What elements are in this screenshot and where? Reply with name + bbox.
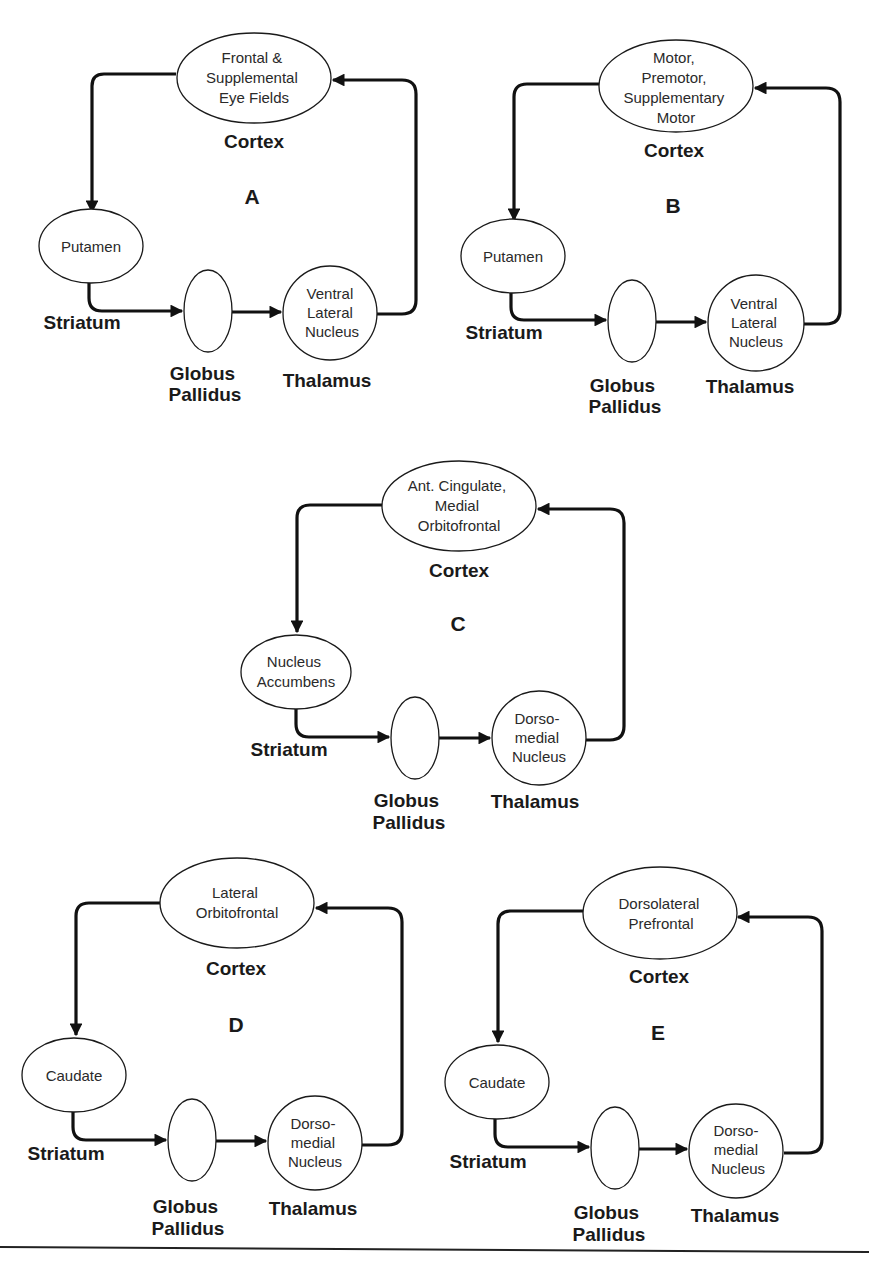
- cortex-node: [583, 867, 737, 959]
- figure-bottom-rule: [0, 1247, 869, 1252]
- circuit-letter: D: [228, 1013, 243, 1036]
- thalamus-label: Thalamus: [283, 370, 372, 391]
- globus-pallidus-label: Globus Pallidus: [573, 1202, 646, 1245]
- striatum-label: Striatum: [465, 322, 542, 343]
- striatum-node-text: Putamen: [61, 238, 121, 255]
- circuit-c: Ant. Cingulate, Medial Orbitofrontal Nuc…: [241, 461, 624, 833]
- cortex-to-striatum-arrow: [76, 903, 160, 1035]
- globus-pallidus-node: [184, 270, 232, 352]
- globus-pallidus-node: [608, 280, 656, 362]
- thalamus-node-text: Dorso- medial Nucleus: [711, 1122, 765, 1177]
- circuit-b: Motor, Premotor, Supplementary Motor Put…: [461, 40, 840, 417]
- globus-pallidus-node: [391, 697, 439, 779]
- thalamus-node-text: Dorso- medial Nucleus: [512, 710, 566, 765]
- striatum-label: Striatum: [250, 739, 327, 760]
- striatum-to-globus-arrow: [495, 1119, 589, 1147]
- striatum-to-globus-arrow: [511, 293, 606, 320]
- striatum-label: Striatum: [43, 312, 120, 333]
- cortex-to-striatum-arrow: [498, 911, 583, 1042]
- circuit-letter: C: [450, 612, 465, 635]
- thalamus-label: Thalamus: [269, 1198, 358, 1219]
- cortex-label: Cortex: [206, 958, 267, 979]
- striatum-to-globus-arrow: [296, 709, 389, 737]
- thalamus-label: Thalamus: [706, 376, 795, 397]
- striatum-node-text: Caudate: [469, 1074, 526, 1091]
- striatum-to-globus-arrow: [73, 1112, 166, 1140]
- thalamus-label: Thalamus: [691, 1205, 780, 1226]
- striatum-node-text: Putamen: [483, 248, 543, 265]
- striatum-label: Striatum: [27, 1143, 104, 1164]
- basal-ganglia-circuits-figure: Frontal & Supplemental Eye Fields Putame…: [0, 0, 869, 1265]
- circuit-letter: A: [244, 185, 259, 208]
- circuit-letter: B: [665, 194, 680, 217]
- circuit-a: Frontal & Supplemental Eye Fields Putame…: [39, 33, 416, 405]
- cortex-to-striatum-arrow: [514, 84, 599, 220]
- thalamus-node-text: Ventral Lateral Nucleus: [305, 285, 359, 340]
- cortex-label: Cortex: [224, 131, 285, 152]
- striatum-label: Striatum: [449, 1151, 526, 1172]
- circuit-letter: E: [651, 1021, 665, 1044]
- striatum-to-globus-arrow: [89, 283, 182, 311]
- globus-pallidus-label: Globus Pallidus: [373, 790, 446, 833]
- globus-pallidus-node: [591, 1107, 639, 1189]
- thalamus-node-text: Ventral Lateral Nucleus: [729, 295, 783, 350]
- striatum-node-text: Caudate: [46, 1067, 103, 1084]
- circuit-d: Lateral Orbitofrontal Caudate Dorso- med…: [22, 858, 402, 1239]
- cortex-to-striatum-arrow: [297, 505, 382, 632]
- cortex-label: Cortex: [629, 966, 690, 987]
- cortex-label: Cortex: [429, 560, 490, 581]
- circuit-e: Dorsolateral Prefrontal Caudate Dorso- m…: [445, 867, 822, 1245]
- cortex-label: Cortex: [644, 140, 705, 161]
- globus-pallidus-node: [168, 1099, 216, 1181]
- cortex-node: [160, 858, 314, 948]
- globus-pallidus-label: Globus Pallidus: [589, 375, 662, 417]
- globus-pallidus-label: Globus Pallidus: [152, 1196, 225, 1239]
- thalamus-node-text: Dorso- medial Nucleus: [288, 1115, 342, 1170]
- thalamus-label: Thalamus: [491, 791, 580, 812]
- cortex-to-striatum-arrow: [92, 74, 176, 212]
- globus-pallidus-label: Globus Pallidus: [169, 363, 242, 405]
- striatum-node: [241, 635, 351, 709]
